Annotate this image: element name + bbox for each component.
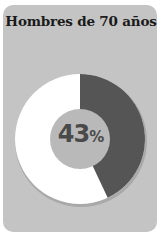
center-percentage: 43% — [50, 120, 112, 148]
percentage-value: 43 — [58, 120, 89, 148]
percentage-unit: % — [89, 128, 104, 146]
donut-chart — [0, 0, 162, 236]
